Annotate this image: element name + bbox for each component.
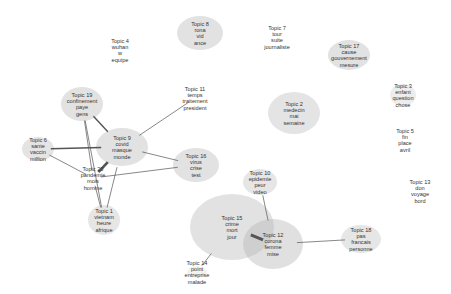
edge-19-20 (84, 121, 91, 170)
topic-label-17: Topic 17causegouvernementmesure (331, 43, 367, 68)
topic-word: video (249, 188, 272, 194)
topic-word: test (186, 171, 207, 177)
topic-label-4: Topic 4wuhanwequipe (111, 38, 129, 63)
topic-word: ance (191, 39, 209, 45)
topic-word: malade (185, 278, 210, 284)
topic-label-12: Topic 12coronafemmemise (263, 232, 284, 257)
edge-9-6 (51, 147, 101, 148)
topic-word: personne (349, 245, 372, 251)
edge-9-16 (142, 152, 178, 161)
edge-12-18 (297, 240, 345, 243)
topic-label-2: Topic 2medecinmaisemaine (283, 101, 304, 126)
topic-label-14: Topic 14pointentreprisemalade (185, 260, 210, 285)
topic-word: journaliste (264, 43, 290, 49)
topic-word: place (396, 140, 414, 146)
topic-label-19: Topic 19confinementpayegens (67, 92, 97, 117)
topic-label-11: Topic 11tempstraitementpresident (183, 86, 208, 111)
topic-word: masque (112, 147, 132, 153)
topic-word: semaine (283, 119, 304, 125)
topic-label-18: Topic 18pasfrancaispersonne (349, 227, 372, 252)
topic-word: gens (67, 110, 97, 116)
topic-word: vaccin (29, 149, 47, 155)
topic-label-13: Topic 13donvoyagebord (410, 179, 431, 204)
edge-9-19 (93, 116, 107, 131)
topic-word: traitement (183, 98, 208, 104)
topic-word: mise (263, 250, 284, 256)
topic-label-6: Topic 6santevaccinmillion (29, 137, 47, 162)
topic-label-15: Topic 15crimemortjour (222, 215, 243, 240)
topic-word: afrique (94, 226, 114, 232)
topic-label-9: Topic 9covidmasquemonde (112, 135, 132, 160)
topic-word: voyage (410, 191, 431, 197)
topic-word: chose (392, 101, 413, 107)
topic-word: equipe (111, 56, 129, 62)
topic-word: mesure (331, 61, 367, 67)
topic-word: francais (349, 239, 372, 245)
topic-word: million (29, 155, 47, 161)
topic-word: femme (263, 244, 284, 250)
edge-19-1 (85, 121, 101, 208)
topic-label-7: Topic 7toursuitejournaliste (264, 25, 290, 50)
edge-9-1 (107, 167, 117, 207)
topic-label-3: Topic 3enfantquestionchose (392, 83, 413, 108)
topic-word: jour (222, 233, 243, 239)
topic-label-5: Topic 5finplaceavril (396, 128, 414, 153)
topic-label-10: Topic 10epidemiepeurvideo (249, 170, 272, 195)
edge-20-16 (101, 167, 178, 177)
topic-word: gouvernement (331, 55, 367, 61)
edge-9-11 (139, 102, 188, 135)
topic-word: monde (112, 153, 132, 159)
topic-word: homme (81, 184, 106, 190)
topic-word: avril (396, 146, 414, 152)
topic-word: president (183, 104, 208, 110)
topic-label-1: Topic 1vietnamheureafrique (94, 208, 114, 233)
topic-word: entreprise (185, 272, 210, 278)
topic-network-diagram (0, 0, 451, 294)
topic-word: bord (410, 197, 431, 203)
topic-label-16: Topic 16viruscrisetest (186, 153, 207, 178)
topic-label-8: Topic 8ronavidance (191, 21, 209, 46)
topic-word: heure (94, 220, 114, 226)
topic-label-20: Topic 20pandemiemoishomme (81, 166, 106, 191)
topic-word: question (392, 95, 413, 101)
